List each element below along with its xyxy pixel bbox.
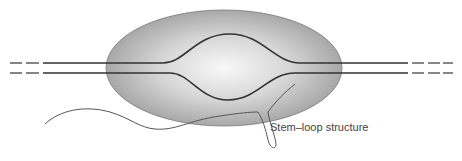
dna-right-dashes xyxy=(412,63,453,73)
dna-left-dashes xyxy=(10,63,39,73)
transcription-bubble-diagram xyxy=(0,0,462,161)
stem-loop-label: Stem–loop structure xyxy=(270,121,368,133)
rna-polymerase-ellipse xyxy=(106,10,342,126)
